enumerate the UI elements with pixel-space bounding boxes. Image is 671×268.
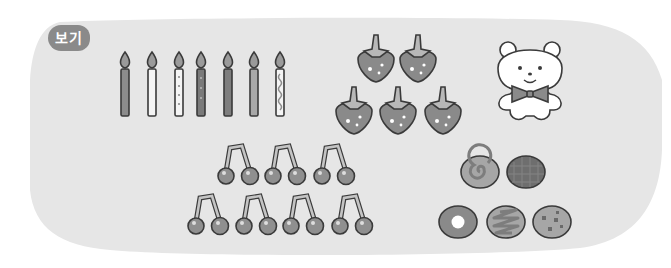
example-box: 보기 xyxy=(0,0,671,268)
teddy-bear-icon xyxy=(498,42,562,119)
candle-icon xyxy=(197,52,206,116)
checkered-cookie-icon xyxy=(507,156,545,188)
candle-icon xyxy=(121,52,130,116)
example-illustration xyxy=(0,0,671,268)
donut-icon xyxy=(439,206,477,238)
zigzag-cookie-icon xyxy=(487,206,525,238)
candle-icon xyxy=(175,52,184,116)
example-badge: 보기 xyxy=(48,25,90,51)
candle-icon xyxy=(148,52,157,116)
candle-icon xyxy=(276,52,285,116)
chip-cookie-icon xyxy=(533,206,571,238)
candle-icon xyxy=(224,52,233,116)
candle-icon xyxy=(250,52,259,116)
